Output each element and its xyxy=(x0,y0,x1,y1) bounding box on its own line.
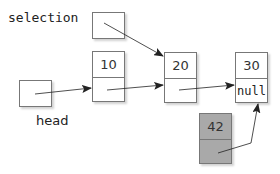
head-arrow xyxy=(35,88,91,94)
pointer-arrows xyxy=(0,0,280,174)
node42-next-arrow xyxy=(218,104,258,153)
node10-next-arrow xyxy=(107,85,163,90)
selection-arrow xyxy=(104,23,163,56)
node20-next-arrow xyxy=(179,85,234,90)
